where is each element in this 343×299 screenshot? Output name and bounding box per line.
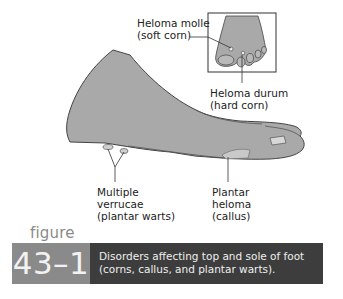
- wart-1: [103, 145, 113, 150]
- label-line: (callus): [212, 210, 251, 222]
- caption-line: (corns, callus, and plantar warts).: [99, 263, 323, 276]
- figure-banner: 43–1 Disorders affecting top and sole of…: [12, 243, 323, 284]
- label-plantar-heloma: Plantar heloma (callus): [212, 186, 251, 222]
- label-heloma-molle: Heloma molle (soft corn): [137, 17, 210, 41]
- label-line: Heloma durum: [210, 87, 288, 99]
- figure-number: 43–1: [12, 243, 90, 284]
- label-line: Multiple: [97, 186, 175, 198]
- figure-word: figure: [30, 224, 75, 242]
- label-heloma-durum: Heloma durum (hard corn): [210, 87, 288, 111]
- label-line: (hard corn): [210, 99, 288, 111]
- toenail: [270, 136, 286, 145]
- label-line: (plantar warts): [97, 210, 175, 222]
- figure-caption: Disorders affecting top and sole of foot…: [90, 243, 323, 284]
- caption-line: Disorders affecting top and sole of foot: [99, 250, 323, 263]
- label-verrucae: Multiple verrucae (plantar warts): [97, 186, 175, 222]
- label-line: (soft corn): [137, 29, 210, 41]
- label-line: heloma: [212, 198, 251, 210]
- label-line: verrucae: [97, 198, 175, 210]
- leader-verrucae: [108, 149, 124, 182]
- label-line: Heloma molle: [137, 17, 210, 29]
- label-line: Plantar: [212, 186, 251, 198]
